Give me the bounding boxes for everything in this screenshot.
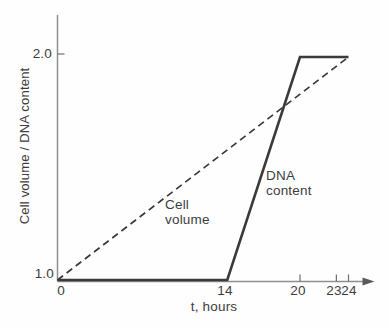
- chart-figure: Cell volume / DNA content 1.0 2.0 0 14 2…: [0, 0, 389, 328]
- plot-area: [0, 0, 389, 328]
- series-label-cell-volume-line2: volume: [165, 212, 210, 227]
- series-label-cell-volume-line1: Cell: [165, 197, 210, 212]
- y-tick-label-1.0: 1.0: [26, 266, 54, 281]
- x-axis-title: t, hours: [134, 299, 294, 314]
- x-tick-label-14: 14: [210, 283, 240, 298]
- series-label-dna-content-line1: DNA: [266, 168, 312, 183]
- series-label-cell-volume: Cell volume: [165, 197, 210, 227]
- y-tick-label-2.0: 2.0: [24, 46, 52, 61]
- x-axis-arrow-icon: [363, 277, 375, 285]
- x-tick-label-0: 0: [46, 283, 76, 298]
- x-tick-label-24: 24: [334, 283, 364, 298]
- x-tick-label-20: 20: [283, 283, 313, 298]
- y-axis-title: Cell volume / DNA content: [17, 68, 32, 225]
- series-label-dna-content: DNA content: [266, 168, 312, 198]
- series-label-dna-content-line2: content: [266, 183, 312, 198]
